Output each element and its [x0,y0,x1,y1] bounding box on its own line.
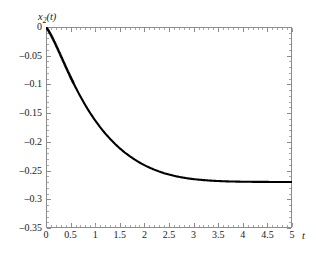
curve-sample-point [72,81,74,83]
y-axis-tick-label: –0.05 [0,51,42,61]
y-axis-title-argument: (t) [46,11,56,22]
y-axis-tick-label: –0.15 [0,108,42,118]
y-axis-tick-label: –0.1 [0,79,42,89]
x-axis-minor-tick-top [292,28,293,30]
y-axis-tick-label: –0.25 [0,166,42,176]
x-axis-minor-tick [292,225,293,227]
y-axis-tick-label: –0.3 [0,194,42,204]
data-curve-svg [46,27,292,228]
chart-figure: x2(t) t 00.511.522.533.544.55 0–0.05–0.1… [0,0,316,256]
x-axis-tick-label: 5 [272,230,312,240]
data-curve-layer [46,27,292,228]
curve-solid-segment [71,77,292,182]
y-axis-tick-label: –0.35 [0,223,42,233]
y-axis-tick-label: –0.2 [0,137,42,147]
y-axis-tick-label: 0 [0,22,42,32]
